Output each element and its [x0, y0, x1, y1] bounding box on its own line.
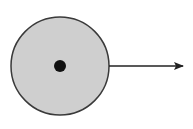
center-dot — [54, 60, 66, 72]
diagram-canvas — [0, 0, 193, 129]
